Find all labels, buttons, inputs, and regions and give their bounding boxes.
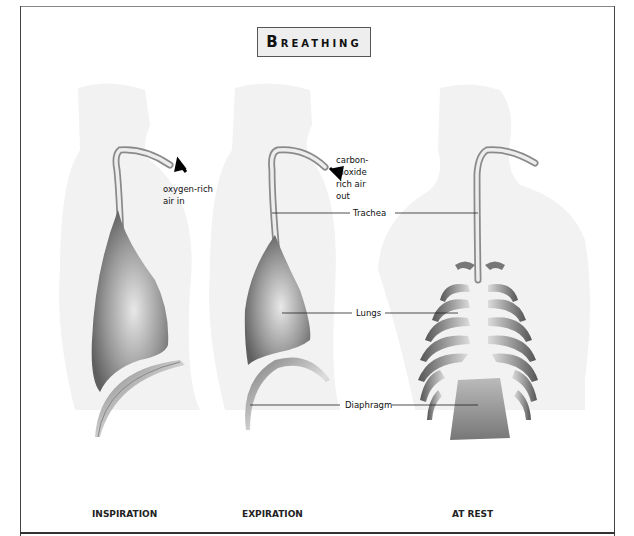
arrow-up-left-icon xyxy=(176,160,186,172)
body-silhouette-at-rest xyxy=(378,84,590,410)
expiration-air-label: carbon- dioxide rich air out xyxy=(336,154,368,202)
diaphragm-at-rest xyxy=(450,378,510,440)
expiration-air-line4: out xyxy=(336,190,368,202)
inspiration-air-label: oxygen-rich air in xyxy=(163,183,213,207)
inspiration-air-line2: air in xyxy=(163,195,213,207)
lungs-label: Lungs xyxy=(356,307,381,319)
expiration-air-line2: dioxide xyxy=(336,166,368,178)
frame-bottom-border xyxy=(20,532,615,534)
stage-label-at-rest: AT REST xyxy=(452,509,493,519)
trachea-label: Trachea xyxy=(353,207,386,219)
diaphragm-label: Diaphragm xyxy=(345,399,392,411)
expiration-air-line1: carbon- xyxy=(336,154,368,166)
stage-label-expiration: EXPIRATION xyxy=(242,509,303,519)
inspiration-air-line1: oxygen-rich xyxy=(163,183,213,195)
expiration-air-line3: rich air xyxy=(336,178,368,190)
stage-label-inspiration: INSPIRATION xyxy=(92,509,157,519)
